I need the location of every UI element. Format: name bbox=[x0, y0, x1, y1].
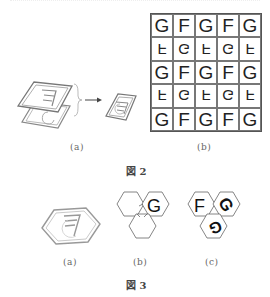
cropped-text-line bbox=[10, 0, 260, 4]
hex-letter-f: F bbox=[194, 196, 205, 216]
grid-cell-flipped: F bbox=[151, 84, 173, 107]
grid-cell: F bbox=[217, 61, 239, 84]
grid-cell-flipped: F bbox=[239, 84, 261, 107]
fig3b-hex-cluster-diagram: G bbox=[115, 190, 171, 250]
grid-cell-flipped: G bbox=[217, 37, 239, 60]
grid-cell: G bbox=[195, 108, 217, 131]
fig3c-hex-cluster-diagram: F G G bbox=[186, 190, 242, 250]
grid-cell-flipped: F bbox=[195, 84, 217, 107]
grid-cell: G bbox=[195, 14, 217, 37]
fig3a-caption: (a) bbox=[63, 257, 77, 267]
grid-cell: G bbox=[151, 108, 173, 131]
hex-bottom bbox=[129, 214, 156, 238]
fig2a-caption: (a) bbox=[70, 142, 84, 152]
grid-cell: F bbox=[217, 14, 239, 37]
hex-left bbox=[117, 192, 144, 216]
grid-cell-flipped: F bbox=[239, 37, 261, 60]
fig2b-letter-grid: G F G F G F G F G F G F G F G F G F G F … bbox=[150, 13, 262, 132]
fig3c-caption: (c) bbox=[205, 257, 219, 267]
grid-cell: G bbox=[239, 61, 261, 84]
grid-cell: G bbox=[151, 14, 173, 37]
grid-cell-flipped: G bbox=[173, 37, 195, 60]
brace-icon bbox=[74, 84, 82, 116]
arrow-right-icon bbox=[85, 98, 102, 103]
grid-cell: F bbox=[173, 14, 195, 37]
grid-cell-flipped: G bbox=[217, 84, 239, 107]
grid-cell: F bbox=[173, 61, 195, 84]
figure-2-label: 図 2 bbox=[126, 163, 146, 178]
grid-cell: G bbox=[151, 61, 173, 84]
fig3a-hex-tile-diagram bbox=[40, 206, 102, 246]
grid-cell: G bbox=[195, 61, 217, 84]
grid-cell: F bbox=[173, 108, 195, 131]
figure-3-label: 図 3 bbox=[126, 277, 146, 292]
grid-cell: F bbox=[217, 108, 239, 131]
grid-cell: G bbox=[239, 108, 261, 131]
grid-cell-flipped: F bbox=[195, 37, 217, 60]
fig2b-caption: (b) bbox=[197, 142, 211, 152]
fig2a-stacked-tiles-diagram bbox=[12, 76, 137, 134]
fig3b-caption: (b) bbox=[133, 257, 147, 267]
grid-cell-flipped: G bbox=[173, 84, 195, 107]
grid-cell-flipped: F bbox=[151, 37, 173, 60]
combined-tile bbox=[106, 94, 136, 120]
grid-cell: G bbox=[239, 14, 261, 37]
hex-letter-g: G bbox=[147, 196, 161, 216]
